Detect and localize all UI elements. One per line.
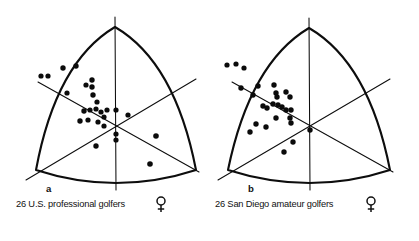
panel-a: a 26 U.S. professional golfers <box>0 0 209 241</box>
data-point <box>247 129 252 134</box>
data-point <box>264 105 269 110</box>
data-point <box>287 115 292 120</box>
data-point <box>290 139 295 144</box>
data-point <box>253 121 258 126</box>
data-point <box>147 161 153 167</box>
panel-a-caption: 26 U.S. professional golfers <box>16 199 125 209</box>
axis-upper-right-lower-left <box>218 79 390 180</box>
panel-letter-b: b <box>248 183 254 194</box>
data-point <box>270 101 275 106</box>
data-point <box>45 73 50 78</box>
data-point <box>113 137 118 142</box>
data-point <box>283 89 288 94</box>
data-point <box>283 107 288 112</box>
data-point <box>125 112 130 117</box>
data-point <box>89 84 94 89</box>
data-point <box>104 107 109 112</box>
data-point <box>85 117 90 122</box>
data-point <box>287 94 292 99</box>
data-point <box>64 90 69 95</box>
data-point <box>263 124 268 129</box>
data-point <box>224 62 229 67</box>
data-point <box>95 119 100 124</box>
data-point <box>113 131 118 136</box>
data-point <box>101 114 106 119</box>
data-point <box>101 123 106 128</box>
data-point <box>241 65 246 70</box>
data-point <box>281 149 286 154</box>
data-point <box>233 61 238 66</box>
figure-container: a 26 U.S. professional golfers <box>0 0 419 241</box>
data-point <box>153 133 159 139</box>
data-point <box>93 143 98 148</box>
data-point <box>89 77 94 82</box>
panel-letter-a: a <box>46 183 51 194</box>
data-point <box>81 108 86 113</box>
vertical-axis <box>115 17 116 190</box>
axis-upper-left-lower-right <box>232 82 393 172</box>
panel-b-data-points <box>224 61 312 154</box>
female-symbol-icon <box>155 196 167 213</box>
data-point <box>87 107 92 112</box>
panel-b-axes-group <box>218 18 393 190</box>
data-point <box>90 92 95 97</box>
panel-b: b 26 San Diego amateur golfers <box>210 0 419 241</box>
data-point <box>250 92 255 97</box>
data-point <box>274 94 279 99</box>
data-point <box>98 109 103 114</box>
panel-b-caption: 26 San Diego amateur golfers <box>215 199 333 209</box>
data-point <box>273 115 278 120</box>
data-point <box>77 118 82 123</box>
data-point <box>83 82 88 87</box>
data-point <box>94 99 99 104</box>
female-symbol-icon <box>365 196 377 213</box>
panel-a-data-points <box>38 63 158 167</box>
data-point <box>238 85 243 90</box>
vertical-axis <box>309 18 310 190</box>
data-point <box>271 82 276 87</box>
data-point <box>73 63 78 68</box>
data-point <box>113 107 118 112</box>
panel-a-axes-group <box>26 17 199 190</box>
data-point <box>60 65 65 70</box>
axis-upper-right-lower-left <box>26 79 196 180</box>
data-point <box>307 127 312 132</box>
data-point <box>288 107 293 112</box>
data-point <box>255 83 260 88</box>
data-point <box>38 73 43 78</box>
data-point <box>288 120 293 125</box>
data-point <box>93 106 98 111</box>
